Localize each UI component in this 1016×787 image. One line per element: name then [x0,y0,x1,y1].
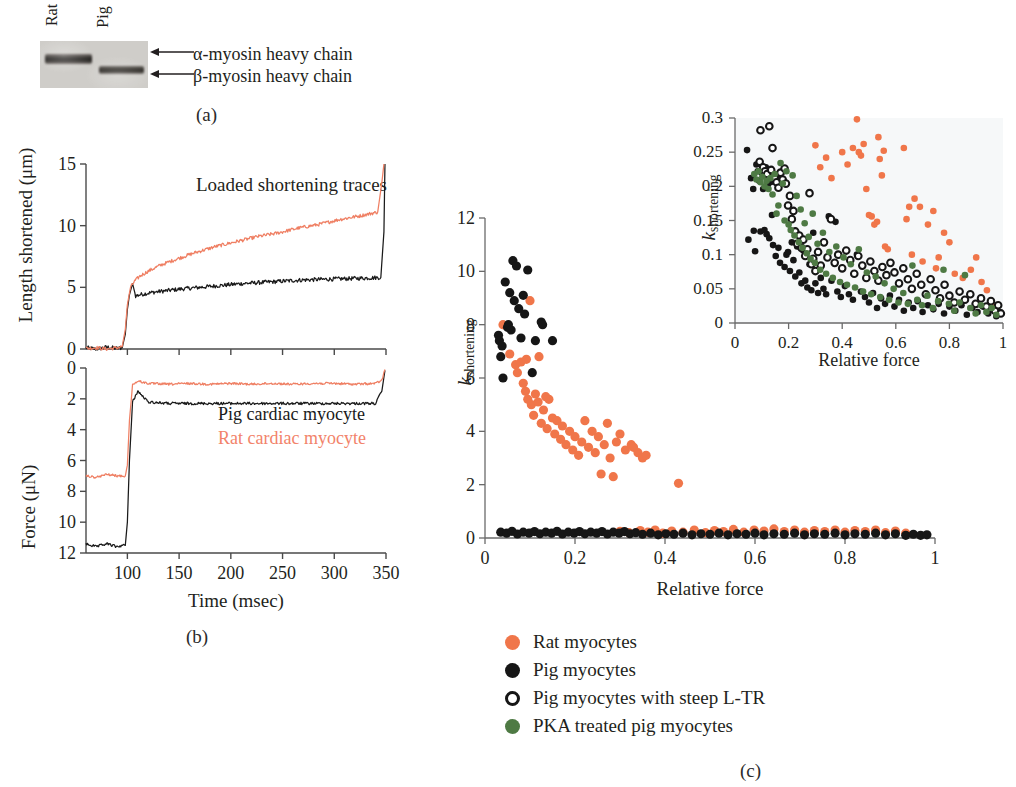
panel-c-caption: (c) [740,760,761,782]
gel-image [40,41,148,88]
panel-b-traces: Length shortened (μm) Force (μN) Loaded … [0,136,420,646]
inset-x-axis-label: Relative force [735,350,1003,371]
legend-item-rat: Rat myocytes [505,628,765,656]
legend-item-pka: PKA treated pig myocytes [505,712,765,740]
series-pig-myocytes-with-steep-l-tr [756,123,1004,317]
inset-scatter-wrap: 00.050.10.150.20.250.300.20.40.60.81 ksh… [675,100,1015,365]
gel-band-rat-alpha [45,54,92,64]
y-tick-label: 8 [30,481,76,502]
legend-label-pka: PKA treated pig myocytes [533,715,733,737]
y-tick-label: 0 [30,358,76,379]
main-x-axis-label: Relative force [485,578,935,600]
y-tick-label: 2 [30,388,76,409]
legend-label-pig-steep-ltr: Pig myocytes with steep L-TR [533,687,765,709]
trace-label-rat: Rat cardiac myocyte [218,428,366,449]
gel-arrow-icons [148,40,196,92]
force-chart: 024681012100150200250300350 [86,368,386,553]
y-tick-label: 0 [677,313,723,333]
legend-item-pig: Pig myocytes [505,656,765,684]
y-tick-label: 0 [429,528,475,549]
legend-item-pig-steep-ltr: Pig myocytes with steep L-TR [505,684,765,712]
main-y-axis-label: kshortening [454,272,479,432]
inset-scatter-plot: 00.050.10.150.20.250.300.20.40.60.81 [735,118,1003,323]
length-shortened-chart: 051015 [86,164,386,349]
legend-marker-pig-steep-ltr [505,691,520,706]
gel-annotation-alpha-myosin: α-myosin heavy chain [193,44,352,65]
y-tick-label: 12 [429,208,475,229]
legend: Rat myocytes Pig myocytes Pig myocytes w… [505,628,765,740]
y-tick-label: 0 [30,339,76,360]
time-axis-label: Time (msec) [86,590,386,612]
y-tick-label: 2 [429,474,475,495]
y-tick-label: 0.3 [677,108,723,128]
gel-band-pig-beta [99,66,144,74]
y-tick-label: 15 [30,154,76,175]
y-tick-label: 6 [30,450,76,471]
inset-y-axis-label: kshortening [698,132,723,282]
legend-marker-pig [505,663,520,678]
gel-lane-label-rat: Rat [43,4,61,26]
legend-label-rat: Rat myocytes [533,631,637,653]
y-tick-label: 10 [30,215,76,236]
gel-annotation-beta-myosin: β-myosin heavy chain [193,66,352,87]
panel-a-caption: (a) [196,104,217,126]
gel-lane-label-pig: Pig [94,6,112,27]
legend-label-pig: Pig myocytes [533,659,636,681]
legend-marker-pka [505,719,520,734]
y-tick-label: 12 [30,543,76,564]
panel-b-caption: (b) [186,626,208,648]
trace-label-pig: Pig cardiac myocyte [218,404,365,425]
panel-c-scatter: 02468101200.20.40.60.81 kshortening Rela… [430,100,1016,787]
legend-marker-rat [505,635,520,650]
y-tick-label: 4 [30,419,76,440]
panel-a-gel: Rat Pig α-myosin heavy chain β-myosin he… [0,0,420,132]
y-tick-label: 10 [30,512,76,533]
y-tick-label: 5 [30,277,76,298]
